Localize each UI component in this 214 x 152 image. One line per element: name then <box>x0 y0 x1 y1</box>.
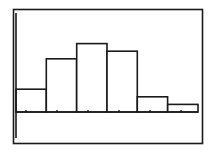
histogram-bar <box>107 51 137 112</box>
histogram-bar <box>46 59 76 112</box>
histogram-plot <box>0 0 214 152</box>
histogram-bar <box>16 89 46 112</box>
calculator-graph-screen <box>0 0 214 152</box>
histogram-bar <box>77 44 107 112</box>
histogram-bar <box>168 104 198 112</box>
histogram-bar <box>137 97 167 112</box>
